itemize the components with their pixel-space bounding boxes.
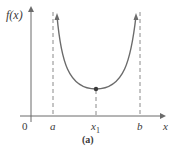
tick-label-a: a (50, 120, 56, 132)
origin-label: 0 (22, 120, 28, 132)
y-axis-label: f(x) (6, 8, 23, 22)
figure-caption: (a) (82, 134, 94, 146)
x-axis-label: x (162, 120, 168, 132)
curve-arrow-right (134, 13, 139, 20)
minimum-point (94, 87, 98, 91)
tick-label-x1: x1 (90, 120, 100, 135)
function-curve (57, 16, 136, 89)
curve-arrow-left (55, 13, 60, 20)
tick-label-b: b (137, 120, 143, 132)
function-graph-figure: f(x) 0 a x1 b x (a) (0, 0, 176, 146)
